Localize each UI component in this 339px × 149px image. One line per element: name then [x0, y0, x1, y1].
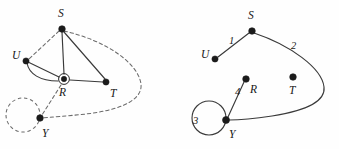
left-label-t: T — [110, 87, 118, 99]
left-label-y: Y — [42, 127, 50, 139]
left-graph: S U R T Y — [6, 7, 141, 139]
right-edge-label-3: 3 — [192, 115, 198, 126]
right-label-y: Y — [229, 128, 237, 140]
left-vertex-t — [103, 79, 109, 85]
left-dashed-edge-s-y-curve — [42, 31, 141, 118]
right-solid-edge-s-y-curve — [229, 33, 324, 120]
left-dashed-self-loop-y — [6, 98, 40, 132]
left-label-u: U — [12, 49, 21, 61]
left-vertex-y — [37, 115, 44, 122]
right-vertex-t — [290, 74, 297, 81]
left-vertex-r — [61, 76, 66, 81]
right-vertex-s — [249, 28, 256, 35]
right-label-r: R — [249, 83, 257, 95]
right-vertex-y — [223, 117, 230, 124]
left-solid-edge-r-t — [70, 80, 103, 82]
right-vertex-u — [212, 56, 218, 62]
left-solid-edge-u-r-upper — [28, 62, 59, 77]
left-vertex-s — [59, 26, 66, 33]
left-solid-edge-s-r — [62, 32, 64, 74]
right-graph: S U R T Y 1 2 4 3 — [192, 9, 324, 140]
right-edge-label-1: 1 — [229, 35, 234, 46]
left-solid-edge-u-r-lower — [27, 63, 58, 81]
graph-canvas: S U R T Y S U R T Y — [0, 0, 339, 149]
left-label-r: R — [58, 86, 66, 98]
right-label-s: S — [248, 9, 254, 21]
right-edge-label-4: 4 — [235, 86, 241, 97]
right-vertex-r — [243, 76, 250, 83]
left-dashed-edge-s-u — [29, 31, 59, 59]
left-label-s: S — [58, 7, 64, 19]
left-solid-edge-s-t — [64, 32, 105, 79]
graph-figure: S U R T Y S U R T Y — [0, 0, 339, 149]
left-vertex-u — [23, 58, 29, 64]
right-edge-label-2: 2 — [291, 40, 297, 51]
right-label-t: T — [289, 84, 297, 96]
right-label-u: U — [201, 48, 210, 60]
